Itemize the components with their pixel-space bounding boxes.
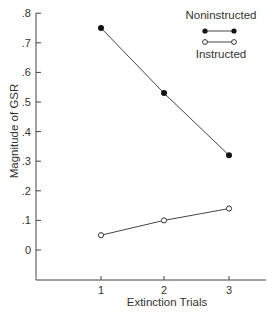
filled-circle-marker-icon xyxy=(161,90,167,96)
x-axis-ticks: 123 xyxy=(98,276,232,296)
legend-label-instructed: Instructed xyxy=(196,48,247,60)
open-circle-marker-icon xyxy=(232,40,237,45)
open-circle-marker-icon xyxy=(226,206,231,211)
x-tick-label: 1 xyxy=(98,284,104,296)
filled-circle-marker-icon xyxy=(231,28,236,33)
x-axis-title: Extinction Trials xyxy=(127,296,208,308)
open-circle-marker-icon xyxy=(161,218,166,223)
open-circle-marker-icon xyxy=(98,233,103,238)
y-tick-label: .1 xyxy=(22,214,31,226)
legend-swatch-noninstructed xyxy=(202,28,236,33)
filled-circle-marker-icon xyxy=(226,152,232,158)
y-axis: 0.1.2.3.4.5.6.7.8 xyxy=(22,7,41,280)
gsr-line-chart: Magnitude of GSR 0.1.2.3.4.5.6.7.8 123 E… xyxy=(0,0,273,313)
legend: Noninstructed Instructed xyxy=(186,9,257,60)
y-tick-label: .3 xyxy=(22,155,31,167)
x-tick-label: 3 xyxy=(226,284,232,296)
y-tick-label: .7 xyxy=(22,37,31,49)
legend-swatch-instructed xyxy=(203,40,237,45)
series-noninstructed xyxy=(98,25,232,158)
x-axis: 123 Extinction Trials xyxy=(36,276,266,308)
filled-circle-marker-icon xyxy=(202,28,207,33)
filled-circle-marker-icon xyxy=(98,25,104,31)
y-tick-label: 0 xyxy=(25,244,31,256)
y-tick-label: .4 xyxy=(22,126,31,138)
y-tick-label: .6 xyxy=(22,66,31,78)
open-circle-marker-icon xyxy=(203,40,208,45)
y-axis-title: Magnitude of GSR xyxy=(8,84,20,179)
x-tick-label: 2 xyxy=(161,284,167,296)
y-tick-label: .8 xyxy=(22,7,31,19)
y-tick-label: .5 xyxy=(22,96,31,108)
y-axis-ticks: 0.1.2.3.4.5.6.7.8 xyxy=(22,7,41,256)
legend-label-noninstructed: Noninstructed xyxy=(186,9,257,21)
series-instructed xyxy=(98,206,231,238)
y-tick-label: .2 xyxy=(22,185,31,197)
